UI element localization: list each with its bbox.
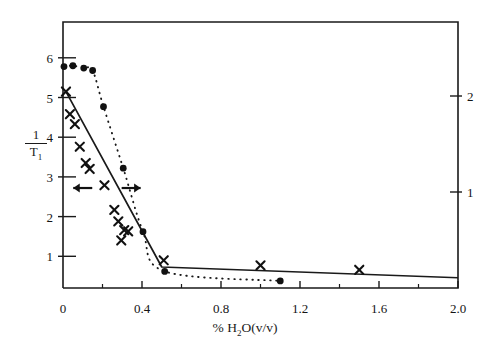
x-axis-tick-label: 1.2	[292, 302, 308, 315]
data-point-circle	[140, 228, 147, 235]
data-point-cross	[110, 206, 118, 214]
data-point-circle	[89, 67, 96, 74]
data-point-circle	[161, 268, 168, 275]
y-axis-tick-label-left: 6	[47, 51, 54, 64]
y-axis-tick-label-left: 2	[47, 210, 54, 223]
x-axis-tick-label: 0.4	[134, 302, 150, 315]
series-markers	[61, 62, 364, 284]
data-point-circle	[120, 165, 127, 172]
data-point-cross	[256, 261, 264, 269]
data-point-circle	[69, 62, 76, 69]
chart-plot-area	[0, 0, 486, 351]
axis-ticks	[58, 58, 462, 288]
data-point-cross	[66, 110, 74, 118]
axis-frame	[63, 22, 458, 288]
data-point-circle	[277, 278, 284, 285]
y-axis-label-numerator: 1	[25, 128, 47, 144]
x-axis-tick-label: 0	[60, 302, 67, 315]
y-axis-tick-label-right: 2	[467, 90, 474, 103]
data-point-cross	[160, 256, 168, 264]
figure-container: 1 T1 % H2O(v/v) 6543212100.40.81.21.62.0	[0, 0, 486, 351]
data-point-circle	[61, 63, 68, 70]
y-axis-label-denominator: T1	[14, 144, 58, 162]
data-point-circle	[80, 65, 87, 72]
x-axis-tick-label: 1.6	[371, 302, 387, 315]
y-axis-label-denominator-subscript: 1	[38, 151, 43, 161]
data-point-cross	[117, 236, 125, 244]
y-axis-tick-label-left: 1	[47, 250, 54, 263]
y-axis-tick-label-right: 1	[467, 186, 474, 199]
x-axis-label: % H2O(v/v)	[180, 320, 310, 338]
data-point-cross	[71, 120, 79, 128]
data-point-cross	[114, 217, 122, 225]
data-point-cross	[355, 266, 363, 274]
data-point-cross	[76, 143, 84, 151]
left-arrow	[73, 183, 92, 192]
right-arrow	[122, 183, 141, 192]
x-axis-tick-label: 2.0	[450, 302, 466, 315]
data-point-circle	[100, 103, 107, 110]
y-axis-tick-label-left: 3	[47, 170, 54, 183]
data-point-cross	[100, 181, 108, 189]
series-lines	[64, 66, 458, 281]
y-axis-tick-label-left: 5	[47, 91, 54, 104]
x-axis-tick-label: 0.8	[213, 302, 229, 315]
y-axis-tick-label-left: 4	[47, 131, 54, 144]
